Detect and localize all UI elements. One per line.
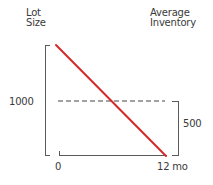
bottom-bracket: [59, 151, 167, 156]
lot-size-inventory-chart: Lot Size Average Inventory 1000 500 0 12…: [0, 0, 213, 185]
left-bracket: [45, 45, 50, 156]
right-bracket: [172, 101, 179, 156]
chart-plot-area: [0, 0, 213, 185]
